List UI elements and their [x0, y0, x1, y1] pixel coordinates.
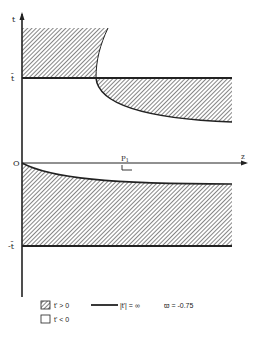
legend-line-label: |t'| = ∞: [120, 302, 140, 310]
origin-label: O: [13, 159, 20, 168]
phase-diagram: t t̄ O -t̄ z P1 t' > 0 t' < 0 |t'| = ∞ ϖ…: [0, 0, 260, 344]
p1-marker: [122, 165, 132, 170]
legend-hatched-label: t' > 0: [54, 302, 69, 309]
neg-tbar-label: -t̄: [8, 241, 15, 251]
legend-empty-swatch: [41, 315, 50, 323]
upper-hatched-region: [22, 28, 108, 78]
lower-hatched-region: [22, 163, 232, 246]
tbar-label: t̄: [10, 73, 15, 83]
t-axis-label: t: [12, 15, 16, 24]
legend-empty-label: t' < 0: [54, 316, 69, 323]
t-axis-arrow-icon: [20, 12, 25, 20]
z-axis-label: z: [241, 153, 245, 161]
legend-hatched-swatch: [41, 301, 50, 309]
p1-label: P1: [121, 155, 129, 163]
z-axis-arrow-icon: [241, 161, 248, 166]
legend-param-label: ϖ = -0.75: [164, 302, 194, 309]
